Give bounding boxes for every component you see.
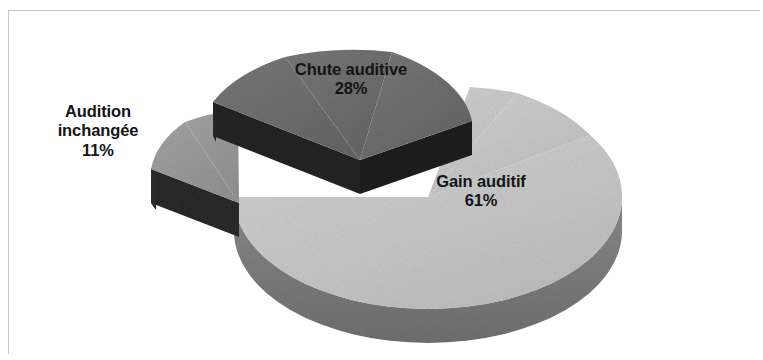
pie-label-audition-inchangee: Audition inchangée 11%	[32, 102, 164, 160]
pie-label-gain-auditif: Gain auditif 61%	[398, 172, 564, 211]
pie-label-audition-inchangee-name-line2: inchangée	[32, 121, 164, 140]
pie-chart-3d	[0, 0, 763, 360]
pie-slice-audition-inchangee-side-arc	[151, 169, 156, 210]
pie-label-audition-inchangee-percent: 11%	[32, 141, 164, 160]
pie-label-gain-auditif-name: Gain auditif	[398, 172, 564, 191]
pie-label-gain-auditif-percent: 61%	[398, 191, 564, 210]
pie-slice-chute-auditive-side-arc	[213, 102, 216, 142]
pie-label-chute-auditive-percent: 28%	[256, 79, 446, 98]
pie-label-chute-auditive-name: Chute auditive	[256, 60, 446, 79]
figure-page: Chute auditive 28% Gain auditif 61% Audi…	[0, 0, 763, 360]
pie-label-chute-auditive: Chute auditive 28%	[256, 60, 446, 99]
pie-label-audition-inchangee-name-line1: Audition	[32, 102, 164, 121]
